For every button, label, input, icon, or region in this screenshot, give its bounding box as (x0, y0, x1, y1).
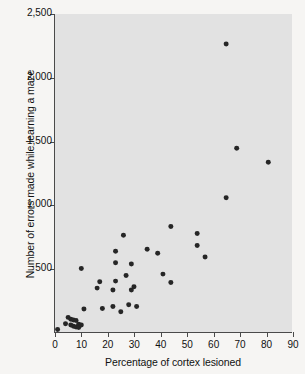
data-point (110, 304, 115, 309)
y-tick-label: 2,500 (27, 7, 52, 18)
y-axis-label: Number of errors made while learning a m… (24, 24, 36, 324)
data-point (81, 307, 86, 312)
data-point (63, 321, 68, 326)
x-tick-mark (293, 332, 294, 337)
data-point (97, 279, 102, 284)
x-tick-label: 10 (76, 339, 87, 350)
data-point (155, 251, 160, 256)
x-tick-label: 90 (287, 339, 298, 350)
x-tick-label: 20 (102, 339, 113, 350)
x-tick-mark (214, 332, 215, 337)
data-point (224, 41, 229, 46)
x-tick-label: 50 (182, 339, 193, 350)
data-point (145, 247, 150, 252)
plot-panel: 5001,0001,5002,0002,500 0102030405060708… (54, 14, 292, 333)
x-tick-label: 80 (261, 339, 272, 350)
y-tick-label: 1,000 (27, 198, 52, 209)
x-tick-label: 60 (208, 339, 219, 350)
data-point (203, 254, 208, 259)
data-point (266, 160, 271, 165)
data-point (195, 243, 200, 248)
data-point (79, 323, 84, 328)
data-point (124, 273, 129, 278)
x-tick-mark (187, 332, 188, 337)
x-tick-label: 0 (52, 339, 58, 350)
x-tick-mark (240, 332, 241, 337)
y-tick-label: 500 (35, 262, 52, 273)
scatter-plot-figure: Number of errors made while learning a m… (0, 0, 305, 374)
data-point (168, 224, 173, 229)
x-tick-label: 70 (235, 339, 246, 350)
x-tick-mark (134, 332, 135, 337)
data-point (224, 195, 229, 200)
y-tick-label: 2,000 (27, 71, 52, 82)
data-point (113, 279, 118, 284)
data-point (195, 231, 200, 236)
y-tick-label: 1,500 (27, 135, 52, 146)
data-point (118, 309, 123, 314)
data-point (132, 284, 137, 289)
data-point (79, 266, 84, 271)
data-point (95, 286, 100, 291)
data-point (234, 146, 239, 151)
data-point (160, 272, 165, 277)
x-tick-mark (267, 332, 268, 337)
x-axis-label: Percentage of cortex lesioned (54, 356, 292, 368)
x-tick-mark (108, 332, 109, 337)
data-point (121, 233, 126, 238)
data-point (110, 288, 115, 293)
data-points-layer (55, 14, 292, 332)
data-point (129, 261, 134, 266)
x-tick-mark (161, 332, 162, 337)
data-point (168, 280, 173, 285)
data-point (113, 249, 118, 254)
x-tick-label: 40 (155, 339, 166, 350)
x-tick-label: 30 (129, 339, 140, 350)
data-point (100, 306, 105, 311)
x-tick-mark (55, 332, 56, 337)
data-point (113, 260, 118, 265)
data-point (126, 302, 131, 307)
data-point (134, 304, 139, 309)
x-tick-mark (81, 332, 82, 337)
